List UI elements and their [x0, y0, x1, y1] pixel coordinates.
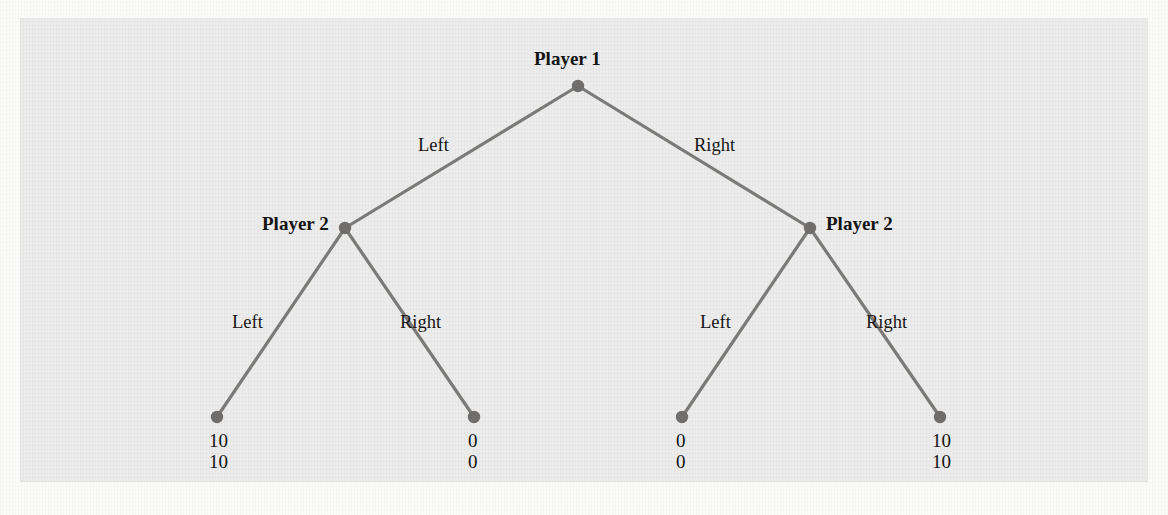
payoff-player2-value: 10	[209, 452, 228, 473]
decision-node	[572, 80, 584, 92]
tree-node-group	[211, 80, 946, 423]
terminal-node	[468, 411, 480, 423]
terminal-node	[676, 411, 688, 423]
terminal-node	[211, 411, 223, 423]
terminal-node	[934, 411, 946, 423]
payoff-outcome-left-left: 10 10	[209, 431, 228, 472]
tree-edge	[578, 86, 810, 228]
left-player2-right-action-label: Right	[400, 312, 441, 333]
payoff-player2-value: 0	[468, 452, 478, 473]
decision-node	[339, 222, 351, 234]
root-left-action-label: Left	[418, 135, 449, 156]
game-tree-diagram	[0, 0, 1168, 515]
right-player2-right-action-label: Right	[866, 312, 907, 333]
right-player2-label: Player 2	[826, 213, 893, 235]
payoff-outcome-right-left: 0 0	[676, 431, 686, 472]
left-player2-left-action-label: Left	[232, 312, 263, 333]
payoff-player2-value: 10	[932, 452, 951, 473]
decision-node	[804, 222, 816, 234]
payoff-outcome-right-right: 10 10	[932, 431, 951, 472]
payoff-player1-value: 10	[209, 431, 228, 452]
left-player2-label: Player 2	[262, 213, 329, 235]
right-player2-left-action-label: Left	[700, 312, 731, 333]
tree-edge	[345, 86, 578, 228]
payoff-outcome-left-right: 0 0	[468, 431, 478, 472]
root-right-action-label: Right	[694, 135, 735, 156]
tree-edge-group	[217, 86, 940, 417]
payoff-player1-value: 10	[932, 431, 951, 452]
payoff-player1-value: 0	[676, 431, 686, 452]
payoff-player1-value: 0	[468, 431, 478, 452]
root-player-label: Player 1	[534, 48, 601, 70]
payoff-player2-value: 0	[676, 452, 686, 473]
